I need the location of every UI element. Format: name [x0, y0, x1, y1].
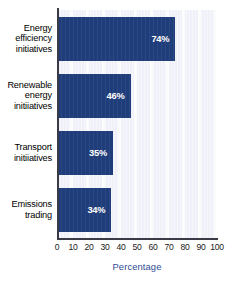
x-axis-tick-label: 90 — [196, 242, 205, 252]
category-label-line: Renewable — [7, 80, 52, 90]
category-axis: Energy efficiency initiatives Renewable … — [0, 10, 57, 238]
category-label-line: Emissions — [11, 199, 52, 209]
y-axis-line — [57, 8, 59, 240]
category-label: Emissions trading — [11, 199, 52, 220]
x-axis-tick-label: 30 — [100, 242, 109, 252]
plot-area: 74% 46% 35% 34% — [57, 10, 217, 238]
category-label-line: trading — [25, 210, 52, 220]
category-label-cell: Transport initiiatives — [0, 124, 57, 181]
x-axis-tick-label: 80 — [180, 242, 189, 252]
x-axis-tick-label: 50 — [132, 242, 141, 252]
bar-chart: Energy efficiency initiatives Renewable … — [0, 0, 229, 283]
x-axis-title: Percentage — [57, 261, 217, 272]
category-label-line: Transport — [14, 142, 52, 152]
x-axis-line — [57, 238, 218, 240]
category-label-line: Energy — [24, 23, 52, 33]
bar[interactable]: 74% — [57, 17, 175, 61]
bar-row: 74% — [57, 10, 217, 67]
bar-row: 46% — [57, 67, 217, 124]
category-label: Transport initiiatives — [14, 142, 52, 163]
category-label-cell: Emissions trading — [0, 181, 57, 238]
x-axis-tick-label: 10 — [68, 242, 77, 252]
category-label-line: initiiatives — [14, 101, 52, 111]
bar-value-label: 35% — [89, 148, 107, 158]
bar[interactable]: 46% — [57, 74, 131, 118]
category-label-line: initiiatives — [14, 153, 52, 163]
bar-value-label: 34% — [87, 205, 105, 215]
bar[interactable]: 34% — [57, 188, 111, 232]
category-label-cell: Energy efficiency initiatives — [0, 10, 57, 67]
category-label-line: efficiency — [15, 33, 52, 43]
x-axis-tick-label: 100 — [210, 242, 224, 252]
x-axis-tick-label: 0 — [55, 242, 60, 252]
x-axis-tick-label: 60 — [148, 242, 157, 252]
category-label: Energy efficiency initiatives — [15, 23, 52, 55]
bar-value-label: 46% — [107, 91, 125, 101]
category-label-line: energy — [25, 90, 52, 100]
bar-row: 35% — [57, 124, 217, 181]
bar-row: 34% — [57, 181, 217, 238]
category-label-line: initiatives — [16, 44, 52, 54]
x-axis-tick-label: 70 — [164, 242, 173, 252]
category-label: Renewable energy initiiatives — [7, 80, 52, 112]
category-label-cell: Renewable energy initiiatives — [0, 67, 57, 124]
x-axis-tick-labels: 0102030405060708090100 — [57, 242, 217, 255]
bar-value-label: 74% — [151, 34, 169, 44]
bars-layer: 74% 46% 35% 34% — [57, 10, 217, 238]
x-axis-tick-label: 20 — [84, 242, 93, 252]
bar[interactable]: 35% — [57, 131, 113, 175]
x-axis-tick-label: 40 — [116, 242, 125, 252]
